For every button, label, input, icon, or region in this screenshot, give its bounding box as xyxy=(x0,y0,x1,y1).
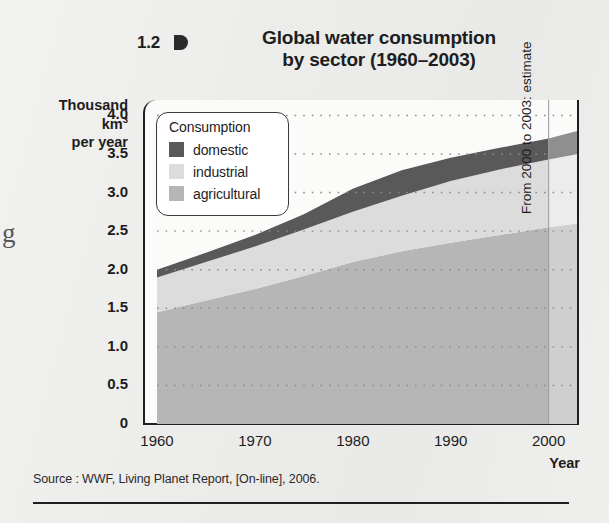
y-tick-label: 2.5 xyxy=(42,221,128,238)
chart-legend: Consumption domestic industrial agricult… xyxy=(156,112,289,216)
y-tick-label: 4.0 xyxy=(42,105,128,122)
figure-number: 1.2 xyxy=(137,33,160,53)
y-tick-label: 3.5 xyxy=(42,144,128,161)
legend-label-domestic: domestic xyxy=(193,142,248,158)
x-tick-label: 2000 xyxy=(514,432,584,449)
legend-swatch-agricultural xyxy=(169,186,184,201)
chart-title-line1: Global water consumption xyxy=(262,27,496,48)
x-tick-label: 1980 xyxy=(318,432,388,449)
legend-label-industrial: industrial xyxy=(193,164,248,180)
legend-item-industrial[interactable]: industrial xyxy=(169,161,288,183)
x-tick-label: 1990 xyxy=(416,432,486,449)
source-note: Source : WWF, Living Planet Report, [On-… xyxy=(33,472,320,486)
x-tick-label: 1960 xyxy=(122,432,192,449)
figure-bullet-icon xyxy=(174,35,188,50)
legend-swatch-domestic xyxy=(169,142,184,157)
y-tick-label: 3.0 xyxy=(42,183,128,200)
page-margin-glyph: g xyxy=(2,218,16,249)
estimate-annotation: From 2000 to 2003: estimate xyxy=(519,14,534,214)
legend-item-domestic[interactable]: domestic xyxy=(169,139,288,161)
y-tick-label: 1.5 xyxy=(42,298,128,315)
bottom-divider xyxy=(33,502,569,504)
y-tick-label: 0.5 xyxy=(42,375,128,392)
page-title: Global water consumption by sector (1960… xyxy=(214,27,544,71)
legend-item-agricultural[interactable]: agricultural xyxy=(169,183,288,205)
legend-title: Consumption xyxy=(169,120,288,135)
x-axis-title: Year xyxy=(549,455,580,471)
legend-swatch-industrial xyxy=(169,164,184,179)
chart-title-line2: by sector (1960–2003) xyxy=(282,49,475,70)
y-tick-label: 1.0 xyxy=(42,337,128,354)
y-tick-label: 0 xyxy=(42,414,128,431)
x-tick-label: 1970 xyxy=(220,432,290,449)
legend-label-agricultural: agricultural xyxy=(193,186,260,202)
y-tick-label: 2.0 xyxy=(42,260,128,277)
